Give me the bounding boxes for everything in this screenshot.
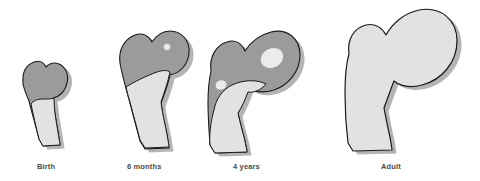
- birth-shadow: [27, 65, 72, 150]
- caption-adult: Adult: [381, 162, 401, 172]
- four-years-femur-diagram: [0, 0, 480, 181]
- six-months-bone-shaft: [126, 71, 170, 149]
- four-years-cartilage-region: [208, 31, 300, 153]
- stage-four-years: [0, 0, 480, 181]
- adult-femur-diagram: [0, 0, 480, 181]
- six-months-cartilage-region: [120, 31, 189, 149]
- six-months-ossification-center-head: [163, 44, 170, 51]
- stage-adult: [0, 0, 480, 181]
- caption-six-months: 6 months: [127, 162, 162, 172]
- stage-six-months: [0, 0, 480, 181]
- caption-birth: Birth: [37, 162, 55, 172]
- birth-femur-diagram: [0, 0, 480, 181]
- four-years-shadow: [213, 35, 305, 157]
- femur-ossification-figure: Birth 6 months 4 years Adult: [0, 0, 480, 181]
- stage-birth: [0, 0, 480, 181]
- six-months-shadow: [124, 35, 193, 153]
- birth-bone-shaft: [31, 98, 60, 146]
- four-years-bone-region: [210, 81, 266, 153]
- caption-four-years: 4 years: [233, 162, 260, 172]
- four-years-ossification-center-head: [257, 44, 288, 73]
- adult-shadow: [350, 13, 462, 155]
- four-years-ossification-center-trochanter: [214, 78, 229, 91]
- adult-bone-region: [345, 9, 457, 151]
- six-months-femur-diagram: [0, 0, 480, 181]
- birth-cartilage-region: [23, 61, 68, 146]
